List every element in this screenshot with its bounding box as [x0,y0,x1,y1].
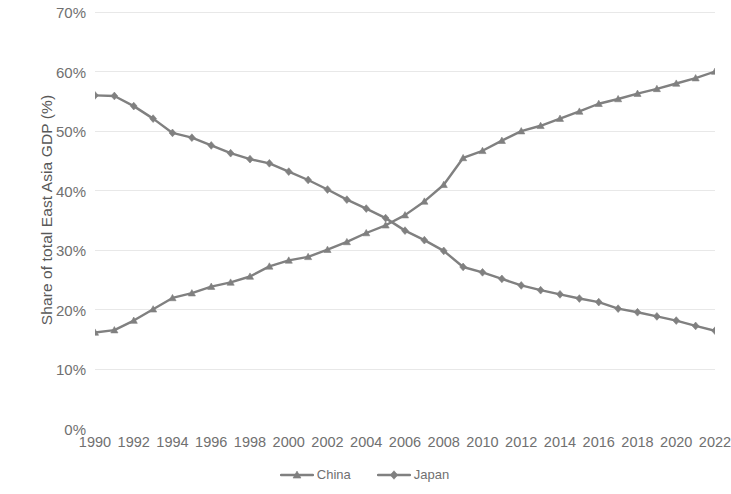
data-point-marker [247,155,254,163]
legend-entry-china[interactable]: China [280,468,351,481]
data-point-marker [576,295,583,303]
y-axis-tick-label: 20% [14,302,86,317]
y-axis-tick-label: 0% [14,422,86,437]
legend-marker-triangle-icon [280,469,314,481]
data-point-marker [208,142,215,150]
x-axis-tick-labels: 1990199219941996199820002002200420062008… [95,434,715,456]
x-axis-tick-label: 2004 [350,434,382,451]
y-axis-tick-label: 60% [14,64,86,79]
data-point-marker [518,282,525,290]
y-axis-tick-label: 70% [14,5,86,20]
x-axis-tick-label: 1996 [195,434,227,451]
y-axis-tick-label: 40% [14,183,86,198]
data-point-marker [343,196,350,204]
x-axis-tick-label: 1990 [79,434,111,451]
data-point-marker [711,68,715,74]
legend-label: Japan [414,468,449,481]
legend-entry-japan[interactable]: Japan [377,468,449,481]
chart-legend: ChinaJapan [0,468,729,481]
y-axis-tick-label: 50% [14,124,86,139]
data-point-marker [673,317,680,325]
x-axis-tick-label: 2008 [428,434,460,451]
data-point-marker [227,149,234,157]
data-point-marker [285,168,292,176]
data-point-marker [557,290,564,298]
series-china [95,68,715,335]
y-axis-tick-label: 10% [14,362,86,377]
x-axis-tick-label: 2016 [583,434,615,451]
x-axis-tick-label: 2012 [505,434,537,451]
data-point-marker [188,134,195,142]
x-axis-tick-label: 2000 [273,434,305,451]
legend-label: China [317,468,351,481]
data-point-marker [324,186,331,194]
plot-area [95,12,715,429]
data-point-marker [363,205,370,213]
x-axis-tick-label: 2010 [466,434,498,451]
data-point-marker [692,322,699,330]
data-point-marker [653,313,660,321]
x-axis-tick-label: 2002 [311,434,343,451]
data-point-marker [111,92,118,100]
x-axis-tick-label: 2018 [621,434,653,451]
x-axis-tick-label: 1992 [118,434,150,451]
series-line [95,72,715,333]
data-point-marker [498,275,505,283]
data-point-marker [479,268,486,276]
y-axis-tick-labels: 0%10%20%30%40%50%60%70% [0,0,86,494]
data-point-marker [421,236,428,244]
data-point-marker [634,308,641,316]
x-axis-tick-label: 1998 [234,434,266,451]
data-point-marker [305,176,312,184]
x-axis-tick-label: 2020 [660,434,692,451]
x-axis-tick-label: 2014 [544,434,576,451]
data-point-marker [537,286,544,294]
x-axis-tick-label: 2006 [389,434,421,451]
y-axis-tick-label: 30% [14,243,86,258]
x-axis-tick-label: 1994 [156,434,188,451]
data-point-marker [95,92,98,100]
x-axis-tick-label: 2022 [699,434,731,451]
data-point-marker [595,298,602,306]
data-point-marker [712,327,715,335]
data-series-layer [95,12,715,429]
data-point-marker [615,305,622,313]
legend-marker-diamond-icon [377,469,411,481]
data-point-marker [266,159,273,167]
